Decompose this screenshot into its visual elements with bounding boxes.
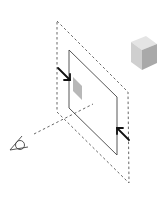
sight-line [34, 104, 93, 134]
eye-icon [10, 136, 28, 150]
arrow-upper-left-icon [58, 68, 70, 80]
inner-solid-plane [69, 50, 117, 155]
arrow-lower-right-icon [117, 128, 129, 140]
cube-icon [131, 36, 157, 70]
projection-diagram [0, 0, 165, 197]
projected-patch [73, 77, 82, 100]
diagram-svg [0, 0, 165, 197]
outer-dashed-plane [57, 21, 129, 183]
